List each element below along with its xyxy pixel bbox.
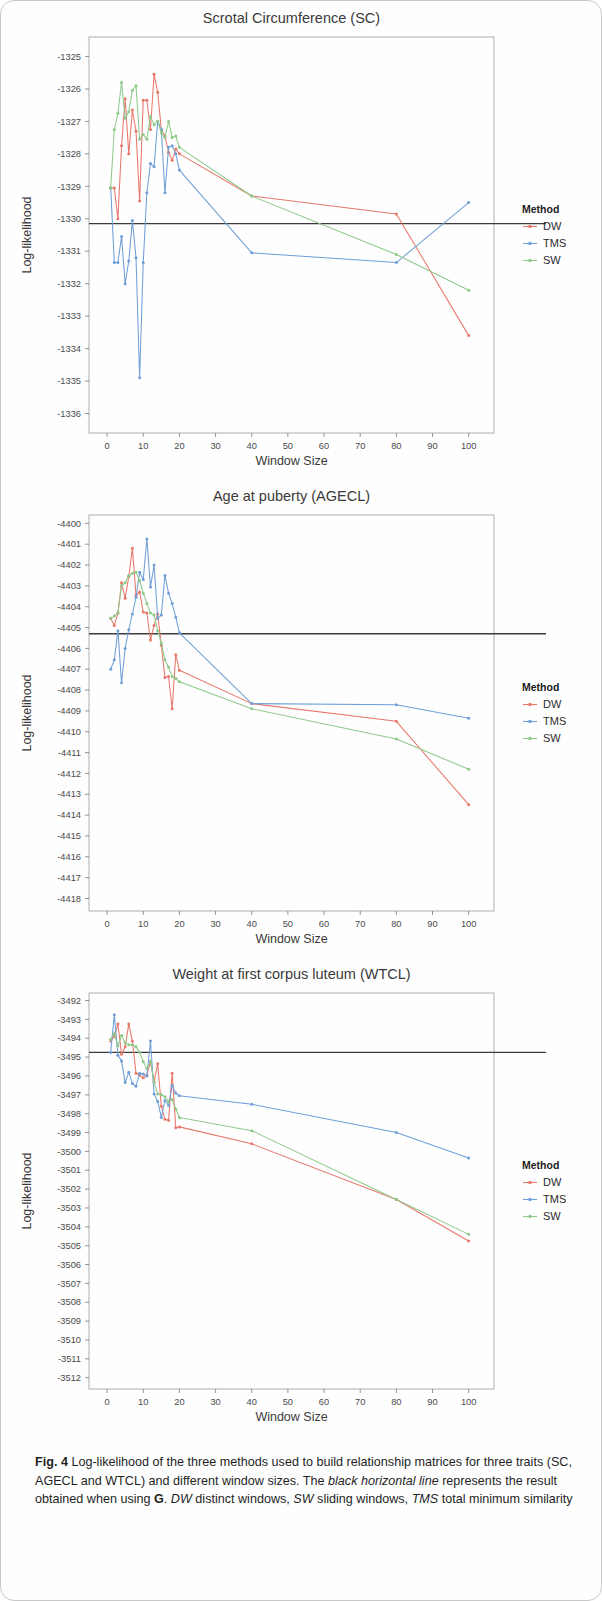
data-point — [153, 564, 156, 567]
y-tick-label: -1336 — [57, 409, 81, 419]
data-point — [395, 738, 398, 741]
data-point — [167, 1104, 170, 1107]
data-point — [109, 1051, 112, 1054]
y-tick-label: -4400 — [57, 519, 81, 529]
data-point — [113, 1032, 116, 1035]
data-point — [178, 1125, 181, 1128]
data-point — [138, 1072, 141, 1075]
legend-marker-dw — [528, 1181, 532, 1185]
data-point — [250, 1129, 253, 1132]
data-point — [171, 602, 174, 605]
y-tick-label: -4416 — [57, 852, 81, 862]
y-tick-label: -3512 — [57, 1373, 81, 1383]
x-tick-label: 70 — [355, 1397, 365, 1407]
data-point — [124, 117, 127, 120]
chart-svg: Scrotal Circumference (SC)-1325-1326-132… — [1, 1, 602, 479]
data-point — [178, 680, 181, 683]
data-point — [142, 1073, 145, 1076]
data-point — [160, 1116, 163, 1119]
data-point — [395, 720, 398, 723]
y-tick-label: -3511 — [58, 1354, 81, 1364]
data-point — [174, 152, 177, 155]
x-axis-label: Window Size — [255, 1410, 327, 1424]
data-point — [116, 217, 119, 220]
data-point — [167, 120, 170, 123]
data-point — [131, 109, 134, 112]
y-tick-label: -1327 — [57, 117, 81, 127]
data-point — [467, 1233, 470, 1236]
data-point — [163, 1099, 166, 1102]
data-point — [174, 677, 177, 680]
data-point — [142, 1076, 145, 1079]
data-point — [131, 547, 134, 550]
data-point — [171, 675, 174, 678]
data-point — [395, 253, 398, 256]
data-point — [113, 128, 116, 131]
legend-label-sw: SW — [543, 254, 561, 266]
data-point — [163, 658, 166, 661]
data-point — [127, 1043, 130, 1046]
y-tick-label: -4405 — [57, 623, 81, 633]
data-point — [178, 1094, 181, 1097]
caption-bold-g: G — [154, 1492, 164, 1506]
data-point — [153, 165, 156, 168]
data-point — [174, 147, 177, 150]
caption-em-dw: DW — [171, 1492, 192, 1506]
caption-text-6: total minimum similarity — [438, 1492, 572, 1506]
data-point — [127, 574, 130, 577]
data-point — [149, 128, 152, 131]
data-point — [142, 578, 145, 581]
y-tick-label: -4407 — [57, 664, 81, 674]
data-point — [113, 615, 116, 618]
y-tick-label: -3492 — [57, 996, 81, 1006]
y-tick-label: -3497 — [57, 1090, 81, 1100]
data-point — [127, 152, 130, 155]
plot-frame — [89, 37, 494, 433]
data-point — [116, 1023, 119, 1026]
data-point — [178, 146, 181, 149]
x-tick-label: 0 — [104, 919, 109, 929]
legend-label-sw: SW — [543, 1210, 561, 1222]
data-point — [149, 639, 152, 642]
data-point — [142, 99, 145, 102]
data-point — [142, 610, 145, 613]
y-tick-label: -3504 — [57, 1222, 81, 1232]
data-point — [167, 1119, 170, 1122]
legend-title: Method — [522, 681, 559, 693]
x-tick-label: 20 — [174, 441, 184, 451]
data-point — [113, 1013, 116, 1016]
data-point — [145, 99, 148, 102]
y-tick-label: -1332 — [57, 279, 81, 289]
data-point — [153, 614, 156, 617]
chart-panel-agecl: Age at puberty (AGECL)-4400-4401-4402-44… — [1, 479, 602, 957]
data-point — [138, 579, 141, 582]
x-tick-label: 0 — [104, 441, 109, 451]
data-point — [142, 592, 145, 595]
y-tick-label: -1330 — [57, 214, 81, 224]
x-tick-label: 90 — [427, 919, 437, 929]
chart-title: Age at puberty (AGECL) — [213, 488, 370, 504]
data-point — [174, 1091, 177, 1094]
y-tick-label: -3508 — [57, 1297, 81, 1307]
y-tick-label: -3505 — [57, 1241, 81, 1251]
chart-panel-wtcl: Weight at first corpus luteum (WTCL)-349… — [1, 957, 602, 1435]
y-tick-label: -4414 — [57, 810, 81, 820]
figure-page: Scrotal Circumference (SC)-1325-1326-132… — [0, 0, 602, 1601]
y-tick-label: -4402 — [57, 560, 81, 570]
y-tick-label: -4404 — [57, 602, 81, 612]
data-point — [156, 1062, 159, 1065]
data-point — [120, 235, 123, 238]
caption-text-5: sliding windows, — [314, 1492, 412, 1506]
data-point — [163, 574, 166, 577]
data-point — [171, 159, 174, 162]
y-tick-label: -4411 — [58, 748, 81, 758]
chart-title: Weight at first corpus luteum (WTCL) — [172, 966, 410, 982]
data-point — [120, 681, 123, 684]
data-point — [174, 616, 177, 619]
data-point — [160, 1093, 163, 1096]
data-point — [149, 1059, 152, 1062]
data-point — [113, 658, 116, 661]
data-point — [124, 282, 127, 285]
data-point — [149, 585, 152, 588]
x-axis-label: Window Size — [255, 454, 327, 468]
